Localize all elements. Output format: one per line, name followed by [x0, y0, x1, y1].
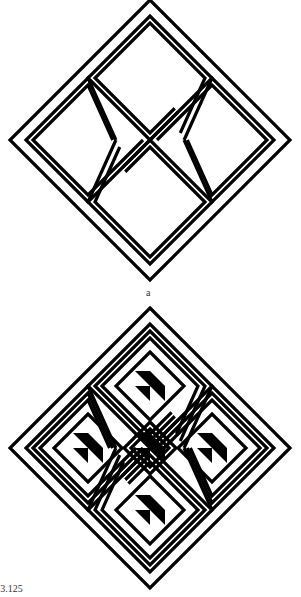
panel-b-pattern	[10, 308, 290, 588]
triangle-fill-4	[73, 448, 88, 463]
triangle-fill-b-2	[212, 433, 227, 448]
triangle-lower-4	[88, 448, 103, 463]
triangle-upper-4	[73, 433, 88, 448]
arm-right-ring-1	[150, 78, 274, 202]
triangle-fill-3	[135, 510, 150, 525]
triangle-fill-b-4	[88, 433, 103, 448]
pattern-figure	[0, 0, 301, 597]
triangle-upper-2	[197, 433, 212, 448]
panel-a-pattern	[10, 0, 290, 280]
triangle-upper-3	[135, 495, 150, 510]
triangle-lower-1	[150, 386, 165, 401]
triangle-fill-1	[135, 386, 150, 401]
triangle-fill-b-3	[150, 495, 165, 510]
figure-caption: re 3.125	[0, 583, 23, 594]
triangle-lower-2	[212, 448, 227, 463]
triangle-upper-1	[135, 371, 150, 386]
panel-a-label: a	[146, 287, 150, 298]
triangle-lower-3	[150, 510, 165, 525]
arm-left-ring-1	[26, 78, 150, 202]
triangle-fill-2	[197, 448, 212, 463]
triangle-fill-b-1	[150, 371, 165, 386]
